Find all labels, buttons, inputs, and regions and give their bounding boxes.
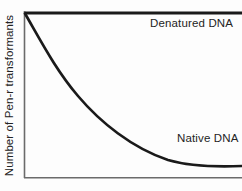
series-label-native-dna: Native DNA [177, 132, 239, 144]
chart-figure: Number of Pen-r transformants Denatured … [0, 0, 242, 191]
series-label-denatured-dna: Denatured DNA [150, 17, 233, 29]
